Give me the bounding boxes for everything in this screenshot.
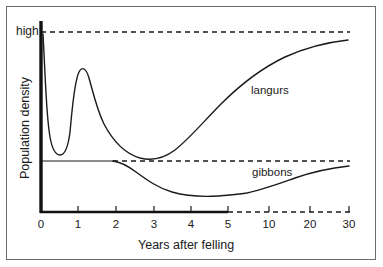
- series-label-gibbons: gibbons: [252, 166, 292, 178]
- x-axis-title: Years after felling: [138, 238, 234, 252]
- x-axis-tick-label-10: 10: [257, 218, 281, 230]
- x-axis-tick-label-1: 1: [66, 218, 90, 230]
- x-axis-tick-label-4: 4: [179, 218, 203, 230]
- x-axis-tick-label-20: 20: [298, 218, 322, 230]
- chart-figure: Population density Years after felling h…: [0, 0, 383, 267]
- x-axis-tick-label-5: 5: [216, 218, 240, 230]
- x-axis-tick-label-30: 30: [337, 218, 361, 230]
- series-label-langurs: langurs: [251, 84, 289, 96]
- x-axis-tick-label-2: 2: [104, 218, 128, 230]
- series-curve-gibbons: [113, 161, 349, 196]
- series-curve-langurs: [43, 34, 348, 159]
- x-axis-tick-label-3: 3: [142, 218, 166, 230]
- x-axis-tick-label-0: 0: [29, 218, 53, 230]
- y-axis-tick-label-high: high: [16, 24, 39, 38]
- y-axis-title: Population density: [18, 48, 34, 208]
